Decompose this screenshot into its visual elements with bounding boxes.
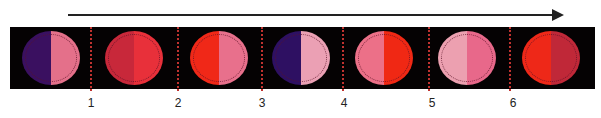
circle-5 xyxy=(355,31,413,85)
step-label-5: 5 xyxy=(425,96,439,110)
dotted-ring xyxy=(193,34,245,82)
dotted-ring xyxy=(441,34,493,82)
divider-1 xyxy=(90,27,92,91)
dotted-ring xyxy=(108,34,160,82)
dotted-ring xyxy=(275,34,327,82)
circle-4 xyxy=(272,31,330,85)
step-label-1: 1 xyxy=(84,96,98,110)
divider-3 xyxy=(261,27,263,91)
arrow-head-icon xyxy=(552,9,564,21)
dotted-ring xyxy=(358,34,410,82)
dotted-ring xyxy=(25,34,77,82)
circle-6 xyxy=(438,31,496,85)
step-label-6: 6 xyxy=(506,96,520,110)
circle-7 xyxy=(522,31,580,85)
divider-4 xyxy=(342,27,344,91)
step-label-2: 2 xyxy=(171,96,185,110)
circle-2 xyxy=(105,31,163,85)
divider-2 xyxy=(177,27,179,91)
step-label-4: 4 xyxy=(337,96,351,110)
divider-6 xyxy=(509,27,511,91)
divider-5 xyxy=(428,27,430,91)
circle-1 xyxy=(22,31,80,85)
circle-3 xyxy=(190,31,248,85)
direction-arrow-line xyxy=(68,14,554,16)
step-label-3: 3 xyxy=(255,96,269,110)
dotted-ring xyxy=(525,34,577,82)
